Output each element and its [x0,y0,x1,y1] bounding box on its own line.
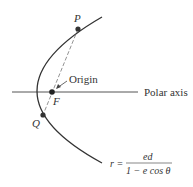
label-p: P [73,12,81,24]
label-polar-axis: Polar axis [144,86,188,98]
point-f [49,89,55,95]
label-q: Q [32,117,40,129]
label-origin: Origin [69,73,98,85]
formula-denominator: 1 − e cos θ [126,165,171,176]
point-q [40,112,45,117]
parabola-diagram: P F Q Origin Polar axis r = ed 1 − e cos… [0,0,193,187]
diagram-svg: P F Q Origin Polar axis r = ed 1 − e cos… [0,0,193,187]
formula-lhs: r = [110,158,123,169]
parabola-curve [37,17,102,163]
arrowhead-icon [56,84,61,89]
point-p [75,26,80,31]
label-f: F [52,95,60,107]
formula-numerator: ed [143,151,153,162]
focal-chord [43,29,78,115]
